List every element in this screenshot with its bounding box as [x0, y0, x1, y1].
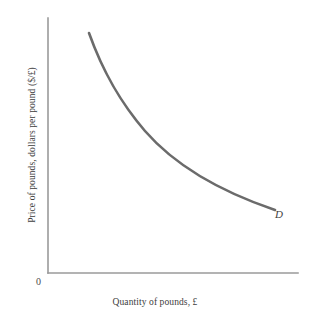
origin-label: 0 [36, 277, 41, 287]
y-axis-label: Price of pounds, dollars per pound ($/£) [27, 25, 37, 265]
demand-curve-figure: 0 D Price of pounds, dollars per pound (… [0, 0, 310, 318]
demand-curve-path [89, 33, 275, 210]
chart-canvas [0, 0, 310, 318]
demand-curve-label: D [275, 209, 283, 220]
x-axis-label: Quantity of pounds, £ [0, 297, 310, 307]
